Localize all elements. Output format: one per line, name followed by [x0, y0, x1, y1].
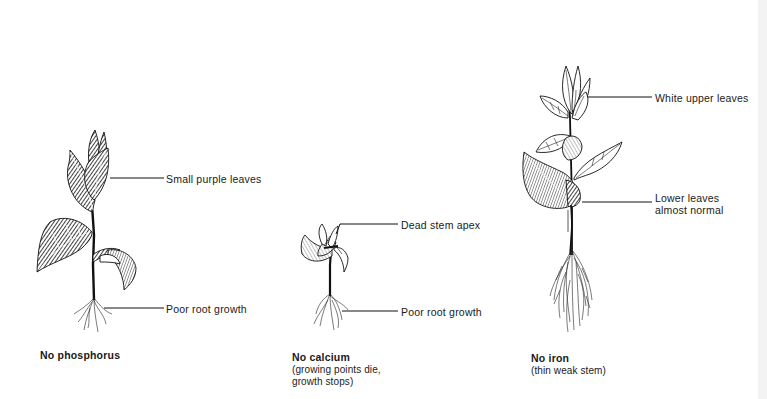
label-poor-root-growth: Poor root growth	[401, 306, 482, 318]
label-lower-leaves-almost-normal: Lower leaves almost normal	[655, 192, 724, 216]
plant-calcium	[301, 224, 398, 330]
leaf	[566, 180, 580, 207]
caption-no-iron: No iron	[531, 352, 569, 364]
leaf	[37, 218, 92, 272]
caption-no-phosphorus: No phosphorus	[40, 349, 120, 361]
label-white-upper-leaves: White upper leaves	[655, 92, 748, 104]
roots	[314, 294, 348, 330]
label-small-purple-leaves: Small purple leaves	[166, 173, 261, 185]
caption-no-calcium: No calcium	[292, 351, 350, 363]
diagram-artwork	[0, 0, 767, 399]
plant-phosphorus	[37, 130, 164, 332]
plant-iron	[523, 66, 652, 332]
leaf	[319, 224, 327, 246]
leaf	[562, 136, 582, 160]
roots	[74, 298, 112, 332]
roots	[550, 250, 592, 332]
label-poor-root-growth: Poor root growth	[166, 303, 247, 315]
caption-iron-note: (thin weak stem)	[531, 365, 606, 377]
leaf	[334, 247, 348, 272]
caption-calcium-note: (growing points die, growth stops)	[292, 364, 381, 387]
label-dead-stem-apex: Dead stem apex	[401, 219, 480, 231]
